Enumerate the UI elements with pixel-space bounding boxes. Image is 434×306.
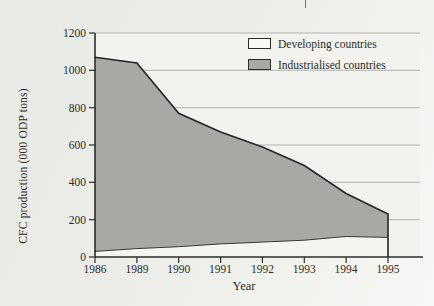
legend: Developing countries Industrialised coun…: [248, 37, 386, 79]
legend-swatch-industrialised: [248, 59, 271, 70]
x-tick-label: 1993: [293, 263, 316, 275]
x-tick-label: 1986: [84, 263, 107, 275]
y-tick-label: 200: [69, 214, 87, 226]
legend-item-developing: Developing countries: [248, 37, 386, 50]
legend-label-industrialised: Industrialised countries: [278, 58, 386, 71]
y-tick-label: 600: [69, 139, 87, 151]
legend-swatch-developing: [248, 38, 271, 49]
scanned-chart-page: 0200400600800100012001986198919901991199…: [0, 0, 434, 306]
x-tick-label: 1990: [167, 263, 190, 275]
x-axis-title: Year: [232, 279, 255, 294]
y-tick-label: 400: [69, 176, 87, 188]
legend-label-developing: Developing countries: [278, 37, 377, 50]
x-tick-label: 1989: [125, 263, 148, 275]
y-tick-label: 1200: [63, 27, 86, 39]
y-axis-title: CFC production (000 ODP tons): [17, 88, 29, 244]
y-tick-label: 800: [69, 102, 87, 114]
y-tick-label: 0: [80, 251, 86, 263]
x-tick-label: 1995: [377, 263, 400, 275]
x-tick-label: 1992: [251, 263, 274, 275]
legend-item-industrialised: Industrialised countries: [248, 58, 386, 71]
y-tick-label: 1000: [63, 64, 86, 76]
x-tick-label: 1991: [209, 263, 232, 275]
x-tick-label: 1994: [335, 263, 358, 275]
